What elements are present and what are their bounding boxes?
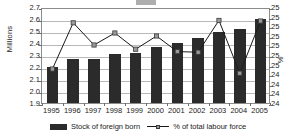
line-marker [238,71,242,75]
x-tick-label: 1999 [126,106,143,115]
y-tick-left: 2.2 [30,64,40,72]
x-tick-label: 1996 [64,106,81,115]
line-series [42,9,271,105]
y-tick-left: 1.9 [30,100,40,108]
legend-item-percent-of-total-labour-force: % of total labour force [147,122,246,131]
line-marker-swatch-icon [147,123,169,130]
legend-label-bar: Stock of foreign born [71,122,140,131]
y-tick-left: 2.7 [30,4,40,12]
line-marker [154,34,158,38]
y-tick-right: 25 [271,23,279,31]
y-tick-right: 25 [271,4,279,12]
x-axis-labels: 1995199619971998199920002001200220032004… [41,106,270,118]
y-tick-right: 25 [271,43,279,51]
legend-label-line: % of total labour force [173,122,246,131]
line-marker [175,50,179,54]
line-marker [113,31,117,35]
x-tick-label: 2005 [251,106,268,115]
x-tick-label: 1998 [106,106,123,115]
y-tick-right: 25 [271,14,279,22]
y-tick-right: 24 [271,71,279,79]
y-tick-left: 2.3 [30,52,40,60]
y-tick-right: 24 [271,91,279,99]
y-axis-left-ticks: 2.72.62.52.42.32.22.12.01.9 [20,8,40,104]
cropped-title-artifact [136,0,156,5]
x-tick-label: 2004 [230,106,247,115]
y-axis-left-label: Millions [5,11,17,67]
line-marker [196,50,200,54]
y-tick-right: 25 [271,33,279,41]
y-tick-right: 24 [271,81,279,89]
x-tick-label: 2002 [189,106,206,115]
y-tick-right: 25 [271,62,279,70]
line-marker [50,67,54,71]
x-tick-label: 2001 [168,106,185,115]
y-tick-left: 2.6 [30,16,40,24]
bar-swatch-icon [50,124,67,130]
x-tick-label: 2000 [147,106,164,115]
x-tick-label: 1995 [43,106,60,115]
line-marker [92,43,96,47]
line-path [52,20,260,73]
chart-legend: Stock of foreign born % of total labour … [0,120,296,133]
y-axis-right-ticks: 2525252525252524242424 [271,8,291,104]
line-marker [134,47,138,51]
y-tick-left: 2.1 [30,76,40,84]
y-tick-left: 2.0 [30,88,40,96]
chart-container: Millions % 2.72.62.52.42.32.22.12.01.9 2… [0,0,296,134]
x-tick-label: 1997 [85,106,102,115]
x-tick-label: 2003 [210,106,227,115]
legend-item-stock-of-foreign-born: Stock of foreign born [50,122,140,131]
y-tick-right: 24 [271,100,279,108]
line-marker [71,21,75,25]
y-tick-left: 2.4 [30,40,40,48]
plot-area [41,8,270,104]
y-tick-left: 2.5 [30,28,40,36]
y-tick-right: 25 [271,52,279,60]
line-marker [258,19,262,23]
line-marker [217,18,221,22]
